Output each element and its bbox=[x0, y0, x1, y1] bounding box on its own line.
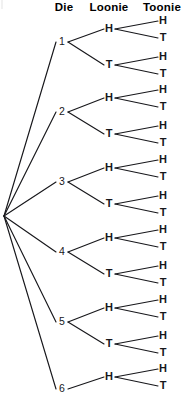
edge-loonie-6-to-toonie-h bbox=[115, 230, 158, 238]
toonie-node-2-H: H bbox=[159, 50, 167, 62]
column-headers: DieLoonieToonie bbox=[55, 1, 181, 13]
edge-root-to-die-4 bbox=[4, 216, 56, 252]
die-node-5: 5 bbox=[59, 315, 65, 327]
die-node-6: 6 bbox=[59, 382, 65, 394]
loonie-node-2-H: H bbox=[105, 91, 113, 103]
toonie-node-3-T: T bbox=[160, 67, 167, 79]
loonie-node-5-T: T bbox=[106, 197, 113, 209]
probability-tree-diagram: DieLoonieToonie 123456 HTHTHTHTHTH HTHTH… bbox=[0, 0, 183, 407]
edge-die-2-to-loonie-H bbox=[68, 98, 104, 112]
edge-loonie-0-to-toonie-h bbox=[115, 21, 158, 29]
edge-die-5-to-loonie-T bbox=[68, 322, 104, 344]
edge-die-5-to-loonie-H bbox=[68, 308, 104, 322]
loonie-node-9-T: T bbox=[106, 337, 113, 349]
column-header-toonie: Toonie bbox=[143, 1, 181, 13]
toonie-outcome-labels: HTHTHTHTHTHTHTHTHTHTHT bbox=[159, 14, 167, 391]
die-node-3: 3 bbox=[59, 175, 65, 187]
die-node-2: 2 bbox=[59, 105, 65, 117]
toonie-node-16-H: H bbox=[159, 293, 167, 305]
toonie-node-17-T: T bbox=[160, 310, 167, 322]
toonie-node-6-H: H bbox=[159, 119, 167, 131]
toonie-node-20-H: H bbox=[159, 362, 167, 374]
edge-loonie-3-to-toonie-t bbox=[115, 134, 158, 143]
edge-die-6-to-loonie-H bbox=[68, 377, 104, 389]
die-node-1: 1 bbox=[59, 35, 65, 47]
tree-edges bbox=[4, 21, 158, 389]
edge-die-3-to-loonie-T bbox=[68, 182, 104, 204]
edge-root-to-die-3 bbox=[4, 182, 56, 216]
edge-die-4-to-loonie-H bbox=[68, 238, 104, 252]
toonie-node-0-H: H bbox=[159, 14, 167, 26]
toonie-node-15-T: T bbox=[160, 276, 167, 288]
edge-loonie-5-to-toonie-t bbox=[115, 204, 158, 213]
edge-die-1-to-loonie-T bbox=[68, 42, 104, 65]
edge-loonie-7-to-toonie-t bbox=[115, 274, 158, 283]
toonie-node-9-T: T bbox=[160, 170, 167, 182]
edge-root-to-die-5 bbox=[4, 216, 56, 322]
edge-loonie-4-to-toonie-t bbox=[115, 168, 158, 177]
column-header-loonie: Loonie bbox=[90, 1, 129, 13]
edge-loonie-1-to-toonie-h bbox=[115, 57, 158, 65]
edge-root-to-die-1 bbox=[4, 42, 56, 216]
toonie-node-10-H: H bbox=[159, 189, 167, 201]
edge-loonie-9-to-toonie-h bbox=[115, 336, 158, 344]
die-node-4: 4 bbox=[59, 245, 65, 257]
edge-loonie-0-to-toonie-t bbox=[115, 29, 158, 38]
edge-die-3-to-loonie-H bbox=[68, 168, 104, 182]
toonie-node-18-H: H bbox=[159, 329, 167, 341]
loonie-node-10-H: H bbox=[105, 370, 113, 382]
loonie-node-4-H: H bbox=[105, 161, 113, 173]
edge-loonie-7-to-toonie-h bbox=[115, 266, 158, 274]
top-left-artifact bbox=[1, 0, 3, 9]
edge-loonie-10-to-toonie-h bbox=[115, 369, 158, 377]
edge-loonie-5-to-toonie-h bbox=[115, 196, 158, 204]
edge-loonie-2-to-toonie-h bbox=[115, 90, 158, 98]
edge-loonie-8-to-toonie-t bbox=[115, 308, 158, 317]
loonie-node-8-H: H bbox=[105, 301, 113, 313]
loonie-node-6-H: H bbox=[105, 231, 113, 243]
toonie-node-8-H: H bbox=[159, 153, 167, 165]
toonie-node-13-T: T bbox=[160, 240, 167, 252]
loonie-node-1-T: T bbox=[106, 58, 113, 70]
edge-loonie-10-to-toonie-t bbox=[115, 377, 158, 386]
loonie-outcome-labels: HTHTHTHTHTH bbox=[105, 22, 113, 382]
edge-die-2-to-loonie-T bbox=[68, 112, 104, 134]
edge-loonie-9-to-toonie-t bbox=[115, 344, 158, 353]
clipped-edge-artifact bbox=[1, 0, 3, 9]
die-outcome-labels: 123456 bbox=[59, 35, 65, 394]
edge-loonie-8-to-toonie-h bbox=[115, 300, 158, 308]
toonie-node-21-T: T bbox=[160, 379, 167, 391]
edge-die-4-to-loonie-T bbox=[68, 252, 104, 274]
edge-root-to-die-6 bbox=[4, 216, 56, 389]
column-header-die: Die bbox=[55, 1, 74, 13]
toonie-node-7-T: T bbox=[160, 136, 167, 148]
edge-die-1-to-loonie-H bbox=[68, 29, 104, 42]
edge-loonie-2-to-toonie-t bbox=[115, 98, 158, 107]
edge-loonie-4-to-toonie-h bbox=[115, 160, 158, 168]
edge-loonie-6-to-toonie-t bbox=[115, 238, 158, 247]
edge-loonie-3-to-toonie-h bbox=[115, 126, 158, 134]
loonie-node-0-H: H bbox=[105, 22, 113, 34]
toonie-node-14-H: H bbox=[159, 259, 167, 271]
toonie-node-5-T: T bbox=[160, 100, 167, 112]
toonie-node-11-T: T bbox=[160, 206, 167, 218]
toonie-node-4-H: H bbox=[159, 83, 167, 95]
toonie-node-12-H: H bbox=[159, 223, 167, 235]
loonie-node-7-T: T bbox=[106, 267, 113, 279]
edge-loonie-1-to-toonie-t bbox=[115, 65, 158, 74]
toonie-node-1-T: T bbox=[160, 31, 167, 43]
toonie-node-19-T: T bbox=[160, 346, 167, 358]
loonie-node-3-T: T bbox=[106, 127, 113, 139]
